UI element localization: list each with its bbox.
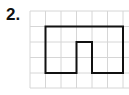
notched-rectangle-shape (46, 27, 124, 74)
grid-figure (0, 0, 129, 95)
